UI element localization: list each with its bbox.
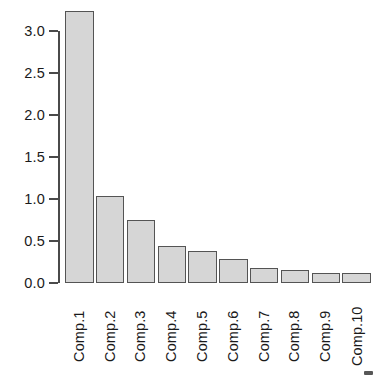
bar	[158, 246, 186, 283]
screeplot-figure: 0.00.51.01.52.02.53.0 Comp.1Comp.2Comp.3…	[0, 0, 379, 385]
scan-artifact	[364, 371, 373, 375]
bar	[250, 268, 278, 283]
bar	[65, 11, 93, 283]
bar	[342, 273, 370, 283]
bar	[127, 220, 155, 283]
x-axis-labels: Comp.1Comp.2Comp.3Comp.4Comp.5Comp.6Comp…	[0, 285, 379, 385]
bar	[188, 251, 216, 283]
bar-plot-area	[0, 0, 379, 285]
bar	[96, 196, 124, 283]
bar	[219, 259, 247, 283]
bar	[312, 273, 340, 283]
bar	[281, 270, 309, 283]
x-axis-label-text: Comp.10	[349, 306, 364, 366]
